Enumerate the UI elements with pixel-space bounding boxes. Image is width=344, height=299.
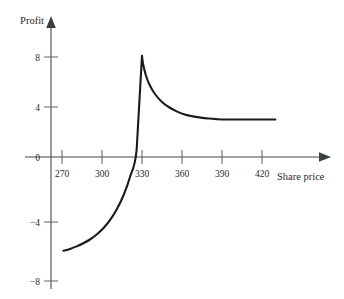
x-axis-arrow-icon xyxy=(319,152,331,162)
profit-curve xyxy=(63,56,275,251)
x-tick-label-360: 360 xyxy=(175,169,190,179)
x-axis-title: Share price xyxy=(277,171,325,182)
y-tick-label-4: 4 xyxy=(35,103,40,113)
y-tick-label-0: 0 xyxy=(35,153,40,163)
x-tick-label-390: 390 xyxy=(215,169,230,179)
y-axis-arrow-icon xyxy=(46,16,56,28)
profit-vs-share-price-chart: 8 4 0 −4 −8 270 300 330 360 390 420 Prof… xyxy=(0,0,344,299)
x-tick-label-270: 270 xyxy=(55,169,70,179)
x-tick-label-420: 420 xyxy=(255,169,270,179)
y-tick-label-8: 8 xyxy=(35,53,40,63)
y-tick-label-neg8: −8 xyxy=(30,277,40,287)
x-tick-label-330: 330 xyxy=(135,169,150,179)
y-axis-title: Profit xyxy=(20,15,44,26)
x-tick-label-300: 300 xyxy=(95,169,110,179)
y-tick-label-neg4: −4 xyxy=(30,218,40,228)
chart-svg: 8 4 0 −4 −8 270 300 330 360 390 420 Prof… xyxy=(0,0,344,299)
